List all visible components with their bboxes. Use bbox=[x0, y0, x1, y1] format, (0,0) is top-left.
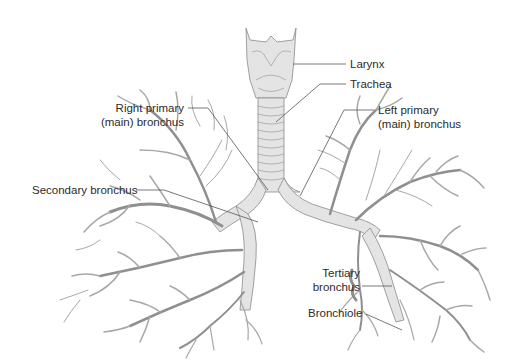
label-left-primary-line1: Left primary bbox=[378, 103, 461, 117]
label-tertiary-bronchus: Tertiary bronchus bbox=[300, 266, 360, 294]
trachea-structure bbox=[256, 98, 300, 192]
label-right-primary-line1: Right primary bbox=[98, 101, 184, 115]
label-tertiary-line1: Tertiary bbox=[300, 266, 360, 280]
right-primary-bronchus bbox=[212, 178, 266, 310]
label-bronchiole: Bronchiole bbox=[308, 306, 362, 320]
label-left-primary-bronchus: Left primary (main) bronchus bbox=[378, 103, 461, 131]
larynx-structure bbox=[246, 28, 296, 98]
label-trachea: Trachea bbox=[350, 77, 392, 91]
label-secondary-bronchus: Secondary bronchus bbox=[32, 183, 137, 197]
label-right-primary-bronchus: Right primary (main) bronchus bbox=[98, 101, 184, 129]
label-left-primary-line2: (main) bronchus bbox=[378, 117, 461, 131]
label-right-primary-line2: (main) bronchus bbox=[98, 115, 184, 129]
left-primary-bronchus bbox=[278, 178, 404, 322]
label-larynx: Larynx bbox=[350, 57, 385, 71]
bronchial-tree-diagram bbox=[0, 0, 510, 363]
label-tertiary-line2: bronchus bbox=[300, 280, 360, 294]
